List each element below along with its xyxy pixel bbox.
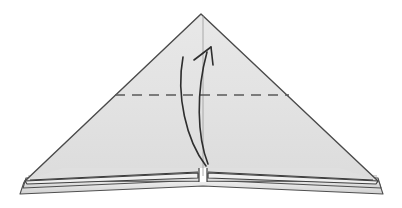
origami-illustration <box>0 0 402 208</box>
origami-diagram-figure: valley fold fold up <box>0 0 402 208</box>
